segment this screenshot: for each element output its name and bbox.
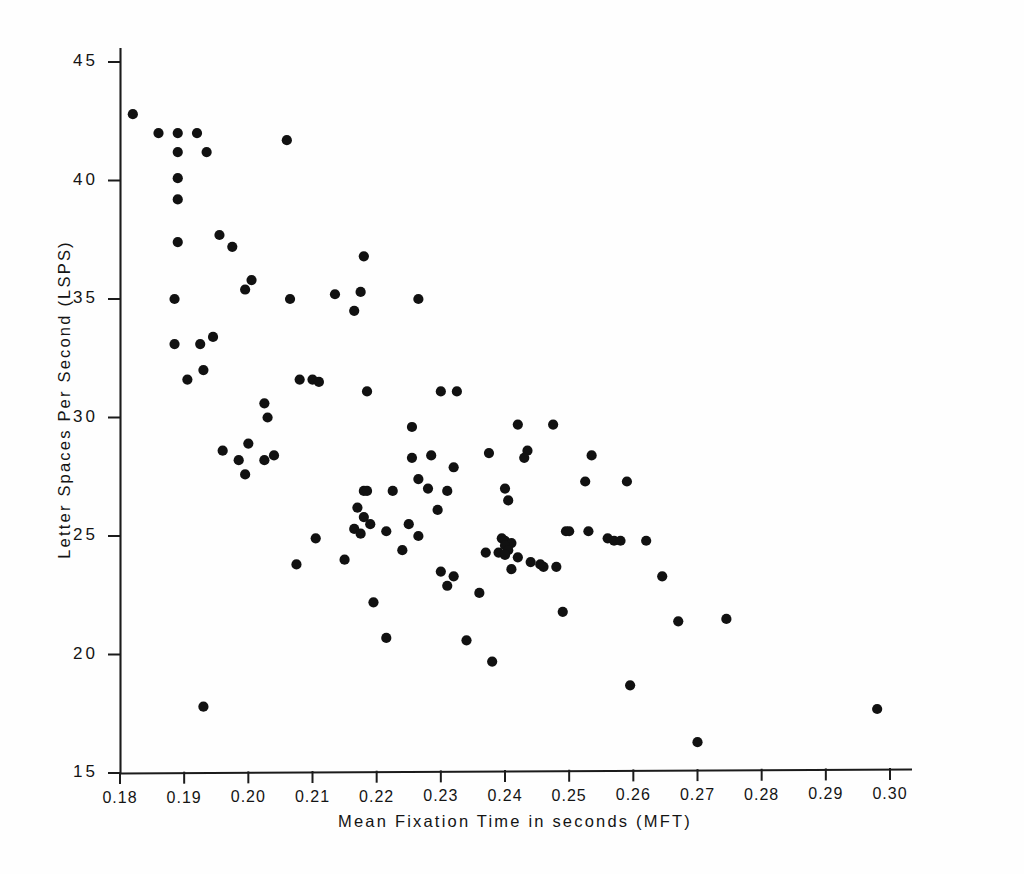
data-point <box>526 557 536 567</box>
data-point <box>407 453 417 463</box>
data-point <box>291 559 301 569</box>
data-point <box>381 526 391 536</box>
data-point <box>657 571 667 581</box>
data-point <box>246 275 256 285</box>
data-point <box>356 287 366 297</box>
data-point <box>182 374 192 384</box>
data-point <box>381 633 391 643</box>
data-point <box>481 547 491 557</box>
data-point <box>173 237 183 247</box>
data-point <box>192 128 202 138</box>
data-point <box>474 588 484 598</box>
data-point <box>173 147 183 157</box>
data-point <box>580 476 590 486</box>
axis-lines <box>120 48 912 774</box>
data-point <box>564 526 574 536</box>
data-point <box>503 495 513 505</box>
data-point <box>413 531 423 541</box>
data-point <box>218 446 228 456</box>
data-point <box>413 294 423 304</box>
data-point <box>615 536 625 546</box>
data-point <box>535 559 545 569</box>
y-tick-label: 35 <box>30 288 98 308</box>
data-point <box>173 194 183 204</box>
data-point <box>362 386 372 396</box>
data-point <box>487 657 497 667</box>
plot-canvas <box>0 0 1024 874</box>
data-point <box>442 486 452 496</box>
data-point <box>388 486 398 496</box>
data-point <box>625 680 635 690</box>
x-tick-label: 0.30 <box>845 785 935 803</box>
data-point <box>513 420 523 430</box>
data-point <box>449 571 459 581</box>
data-point <box>339 555 349 565</box>
data-point <box>433 505 443 515</box>
data-point <box>442 581 452 591</box>
data-point <box>198 702 208 712</box>
data-point <box>436 566 446 576</box>
data-point <box>519 453 529 463</box>
data-point <box>269 450 279 460</box>
data-point <box>426 450 436 460</box>
data-point <box>359 251 369 261</box>
data-point <box>721 614 731 624</box>
data-point <box>558 607 568 617</box>
data-point <box>368 597 378 607</box>
y-tick-marks <box>108 62 121 773</box>
y-tick-label: 45 <box>30 51 98 71</box>
data-point <box>349 306 359 316</box>
data-point <box>461 635 471 645</box>
data-point <box>513 552 523 562</box>
data-point <box>551 562 561 572</box>
data-point <box>173 128 183 138</box>
data-point <box>449 462 459 472</box>
data-point <box>311 533 321 543</box>
data-point <box>641 536 651 546</box>
data-points <box>128 109 883 747</box>
y-tick-label: 40 <box>30 170 98 190</box>
data-point <box>243 438 253 448</box>
data-point <box>548 420 558 430</box>
data-point <box>198 365 208 375</box>
data-point <box>240 469 250 479</box>
data-point <box>295 374 305 384</box>
data-point <box>173 173 183 183</box>
data-point <box>404 519 414 529</box>
data-point <box>423 484 433 494</box>
y-tick-label: 25 <box>30 525 98 545</box>
data-point <box>436 386 446 396</box>
data-point <box>234 455 244 465</box>
data-point <box>365 519 375 529</box>
data-point <box>413 474 423 484</box>
data-point <box>202 147 212 157</box>
data-point <box>195 339 205 349</box>
data-point <box>622 476 632 486</box>
data-point <box>208 332 218 342</box>
data-point <box>128 109 138 119</box>
data-point <box>169 339 179 349</box>
data-point <box>362 486 372 496</box>
y-tick-label: 20 <box>30 644 98 664</box>
data-point <box>227 242 237 252</box>
data-point <box>506 564 516 574</box>
data-point <box>330 289 340 299</box>
data-point <box>500 484 510 494</box>
data-point <box>500 550 510 560</box>
data-point <box>484 448 494 458</box>
data-point <box>583 526 593 536</box>
data-point <box>153 128 163 138</box>
scatter-plot-figure: Letter Spaces Per Second (LSPS) Mean Fix… <box>0 0 1024 874</box>
data-point <box>262 412 272 422</box>
data-point <box>169 294 179 304</box>
y-tick-label: 30 <box>30 407 98 427</box>
data-point <box>314 377 324 387</box>
data-point <box>692 737 702 747</box>
data-point <box>259 455 269 465</box>
data-point <box>587 450 597 460</box>
data-point <box>352 502 362 512</box>
y-tick-label: 15 <box>30 762 98 782</box>
data-point <box>285 294 295 304</box>
data-point <box>872 704 882 714</box>
data-point <box>407 422 417 432</box>
